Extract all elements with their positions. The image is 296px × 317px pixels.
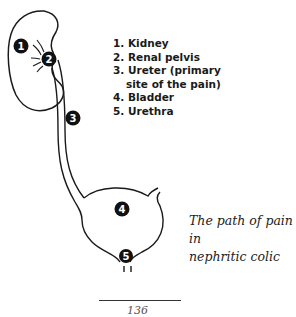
label-badge-4: 4 (115, 202, 130, 217)
legend-item-ureter: 3. Ureter (primary (113, 64, 221, 78)
svg-text:1: 1 (18, 41, 25, 52)
page-number: 136 (127, 305, 148, 317)
legend-item-bladder: 4. Bladder (113, 91, 221, 105)
footer-rule (99, 300, 181, 301)
pain-rays (31, 40, 44, 72)
label-badge-1: 1 (14, 39, 29, 54)
legend-item-kidney: 1. Kidney (113, 37, 221, 51)
legend-item-ureter-continued: site of the pain) (113, 78, 221, 92)
urethra-walls (124, 266, 131, 272)
caption-line-1: The path of pain in (189, 212, 296, 248)
label-badge-2: 2 (42, 52, 57, 67)
label-badge-3: 3 (66, 111, 81, 126)
svg-text:4: 4 (119, 204, 126, 215)
legend-item-renal-pelvis: 2. Renal pelvis (113, 51, 221, 65)
label-badge-5: 5 (119, 249, 133, 263)
figure-caption: The path of pain in nephritic colic (189, 212, 296, 266)
svg-text:3: 3 (70, 113, 77, 124)
ureter-right-wall (58, 60, 84, 198)
caption-line-2: nephritic colic (189, 248, 296, 266)
legend: 1. Kidney 2. Renal pelvis 3. Ureter (pri… (113, 37, 221, 119)
svg-text:5: 5 (123, 251, 130, 262)
legend-item-urethra: 5. Urethra (113, 105, 221, 119)
ureter-left-wall (52, 68, 82, 220)
svg-text:2: 2 (46, 54, 53, 65)
